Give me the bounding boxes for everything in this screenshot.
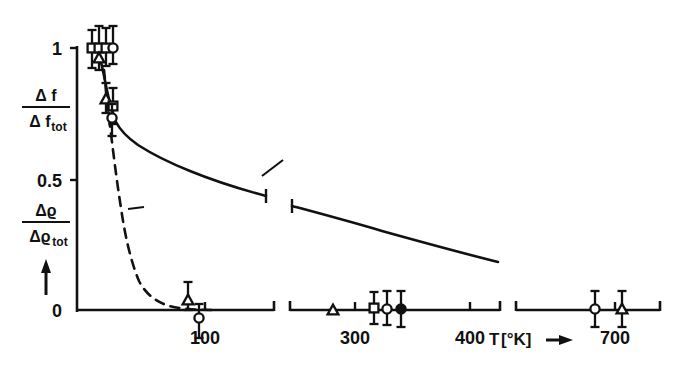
marker-open-circle	[194, 313, 203, 322]
marker-open-circle	[382, 304, 391, 313]
rho-curve-segment-mid	[292, 206, 498, 262]
x-axis-title-symbol: T	[489, 330, 500, 349]
point-circle-e	[590, 291, 599, 327]
marker-open-circle	[107, 113, 116, 122]
x-axis-title-arrow-icon	[546, 335, 573, 345]
y-axis-title-lower-subscript: tot	[52, 235, 67, 249]
y-tick-label: 0	[52, 301, 62, 321]
point-triangle-a	[94, 53, 105, 63]
y-axis-direction-arrow	[41, 259, 51, 295]
point-triangle-c	[183, 282, 194, 310]
marker-open-circle	[590, 304, 599, 313]
x-axis-title: T [°K]	[489, 330, 573, 349]
y-axis-group	[70, 46, 77, 312]
data-markers-group	[88, 26, 628, 338]
y-tick-label: 0.5	[37, 171, 62, 191]
x-tick-label: 700	[600, 328, 630, 348]
y-axis-title-lower-numerator: Δϱ	[35, 202, 57, 219]
marker-open-circle	[108, 43, 117, 52]
f-curve-dashed	[104, 70, 216, 310]
marker-filled-circle	[396, 304, 405, 313]
marker-triangle	[183, 295, 194, 305]
y-axis-title-lower-denominator: Δϱ	[29, 228, 51, 245]
rho-curve-segment-low	[98, 52, 266, 196]
point-circle-d	[382, 291, 391, 325]
marker-triangle	[94, 53, 105, 63]
f-label-leader-line	[128, 207, 144, 209]
marker-triangle	[617, 304, 628, 314]
plot-svg: 10.50 100300400700 Δ f Δ f tot	[0, 0, 682, 367]
marker-square	[370, 304, 379, 313]
y-axis-title-upper-numerator: Δ f	[35, 87, 57, 104]
x-axis-segment-mid	[290, 301, 500, 311]
point-triangle-d	[328, 305, 339, 315]
rho-label-leader-line	[262, 160, 283, 176]
y-axis-title-upper: Δ f Δ f tot	[22, 87, 70, 134]
x-tick-label: 400	[455, 328, 485, 348]
y-tick-labels: 10.50	[37, 39, 62, 321]
x-axis-segment-high	[516, 301, 660, 311]
x-tick-label: 100	[190, 328, 220, 348]
point-triangle-e	[617, 291, 628, 327]
curve-labels	[128, 160, 283, 209]
marker-triangle	[328, 305, 339, 315]
figure-canvas: 10.50 100300400700 Δ f Δ f tot	[0, 0, 682, 367]
curve-group	[98, 52, 498, 310]
y-tick-label: 1	[52, 39, 62, 59]
point-circle-filled-a	[396, 291, 405, 327]
y-axis-title-lower: Δϱ Δϱ tot	[22, 202, 70, 249]
y-axis-title-upper-denominator: Δ f	[29, 113, 51, 130]
y-axis-title-upper-subscript: tot	[51, 120, 66, 134]
x-tick-label: 300	[340, 328, 370, 348]
point-square-e	[370, 292, 379, 324]
x-axis-title-unit: [°K]	[501, 330, 531, 349]
point-circle-a	[108, 26, 117, 64]
x-axis-segment-low	[77, 301, 274, 311]
